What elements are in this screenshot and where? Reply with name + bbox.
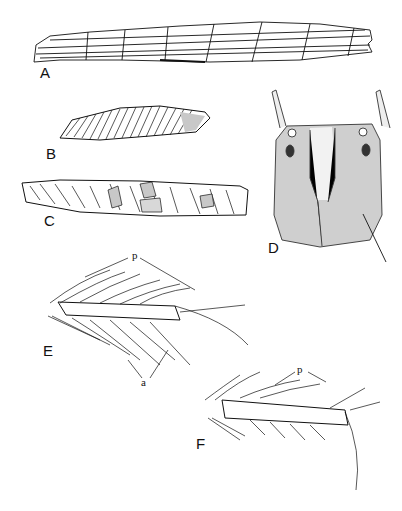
panel-label-c: C	[44, 213, 55, 228]
annotation-e-a: a	[141, 377, 146, 388]
annotation-e-p: p	[132, 250, 138, 261]
annotation-f-p: p	[297, 364, 303, 375]
panel-label-b: B	[46, 146, 56, 161]
panel-b-drawing	[60, 106, 210, 140]
panel-label-f: F	[196, 436, 205, 451]
panel-label-e: E	[43, 343, 53, 358]
panel-c-drawing	[22, 180, 248, 216]
panel-a-drawing	[34, 22, 372, 62]
panel-f-drawing	[205, 372, 380, 490]
panel-d-drawing	[272, 90, 390, 262]
panel-label-a: A	[40, 65, 50, 80]
panel-e-drawing	[48, 258, 248, 378]
panel-label-d: D	[268, 240, 279, 255]
